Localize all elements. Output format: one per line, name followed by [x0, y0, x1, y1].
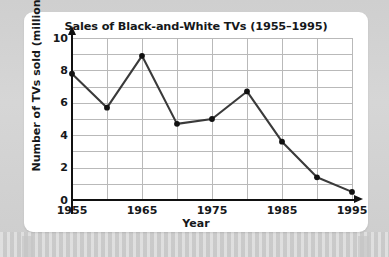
backdrop-texture: [0, 232, 389, 257]
x-axis-tick-label: 1965: [127, 205, 158, 216]
y-axis-tick-label: 2: [40, 162, 68, 173]
x-axis-tick-label: 1995: [337, 205, 368, 216]
data-point-marker: [139, 53, 145, 59]
x-axis-arrowhead-icon: [354, 195, 363, 203]
x-axis-line: [72, 199, 356, 201]
data-point-marker: [209, 116, 215, 122]
y-axis-tick-label: 10: [40, 33, 68, 44]
series-polyline: [72, 56, 352, 192]
gridline-vertical: [352, 38, 353, 200]
x-axis-tick-label: 1975: [197, 205, 228, 216]
backdrop-foot-left: [22, 236, 33, 257]
chart-card: Sales of Black-and-White TVs (1955–1995)…: [24, 12, 368, 232]
x-axis-tick-labels: 19551965197519851995: [24, 205, 368, 221]
data-series-line: [72, 38, 352, 200]
y-axis-tick-labels: 0246810: [34, 12, 68, 232]
y-axis-tick-label: 4: [40, 130, 68, 141]
data-point-marker: [174, 121, 180, 127]
y-axis-tick-label: 8: [40, 65, 68, 76]
data-point-marker: [279, 139, 285, 145]
y-axis-line: [71, 34, 73, 214]
data-point-marker: [104, 105, 110, 111]
data-point-marker: [244, 89, 250, 95]
y-axis-arrowhead-icon: [68, 26, 76, 35]
data-point-marker: [314, 174, 320, 180]
backdrop-foot-right: [358, 236, 369, 257]
y-axis-tick-label: 6: [40, 97, 68, 108]
plot-area: [72, 38, 352, 200]
x-axis-tick-label: 1985: [267, 205, 298, 216]
data-point-marker: [349, 189, 355, 195]
